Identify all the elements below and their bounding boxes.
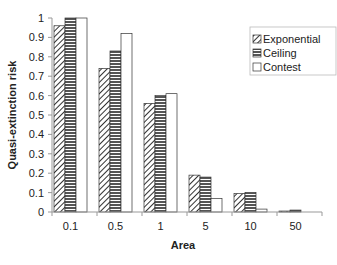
legend-swatch-ceiling [253, 49, 261, 57]
y-axis-ticks: 00.10.20.30.40.50.60.70.80.91 [29, 12, 52, 218]
bar-chart: 00.10.20.30.40.50.60.70.80.91 0.10.51510… [0, 0, 337, 265]
y-tick-label: 0.2 [29, 167, 44, 179]
legend-swatch-contest [253, 63, 261, 71]
bar-ceiling-0.5 [110, 51, 121, 212]
y-tick-label: 0.6 [29, 90, 44, 102]
bar-contest-1 [166, 94, 177, 212]
y-axis-title: Quasi-extinction risk [6, 60, 18, 170]
bar-exponential-0.1 [54, 26, 65, 212]
bar-contest-5 [211, 198, 222, 212]
bar-exponential-10 [234, 194, 245, 212]
bar-contest-0.1 [76, 18, 87, 212]
legend-label-exponential: Exponential [263, 33, 321, 45]
x-tick-label: 10 [244, 220, 256, 232]
x-tick-label: 0.5 [108, 220, 123, 232]
legend-label-ceiling: Ceiling [263, 47, 297, 59]
y-tick-label: 0.5 [29, 109, 44, 121]
y-tick-label: 0 [38, 206, 44, 218]
y-tick-label: 0.4 [29, 128, 44, 140]
x-tick-label: 1 [157, 220, 163, 232]
bar-ceiling-0.1 [65, 18, 76, 212]
y-tick-label: 1 [38, 12, 44, 24]
x-tick-label: 0.1 [63, 220, 78, 232]
x-axis-ticks: 0.10.5151050 [52, 212, 322, 232]
bar-exponential-5 [189, 175, 200, 212]
y-tick-label: 0.9 [29, 31, 44, 43]
bar-contest-0.5 [121, 34, 132, 212]
bar-exponential-1 [144, 103, 155, 212]
bar-exponential-0.5 [99, 68, 110, 212]
x-tick-label: 50 [289, 220, 301, 232]
legend-label-contest: Contest [263, 61, 301, 73]
legend-swatch-exponential [253, 35, 261, 43]
x-tick-label: 5 [202, 220, 208, 232]
y-tick-label: 0.1 [29, 187, 44, 199]
bar-ceiling-10 [245, 193, 256, 212]
bar-ceiling-5 [200, 177, 211, 212]
legend: ExponentialCeilingContest [250, 27, 336, 75]
y-tick-label: 0.8 [29, 51, 44, 63]
bar-ceiling-1 [155, 96, 166, 212]
x-axis-title: Area [171, 239, 196, 251]
y-tick-label: 0.3 [29, 148, 44, 160]
y-tick-label: 0.7 [29, 70, 44, 82]
